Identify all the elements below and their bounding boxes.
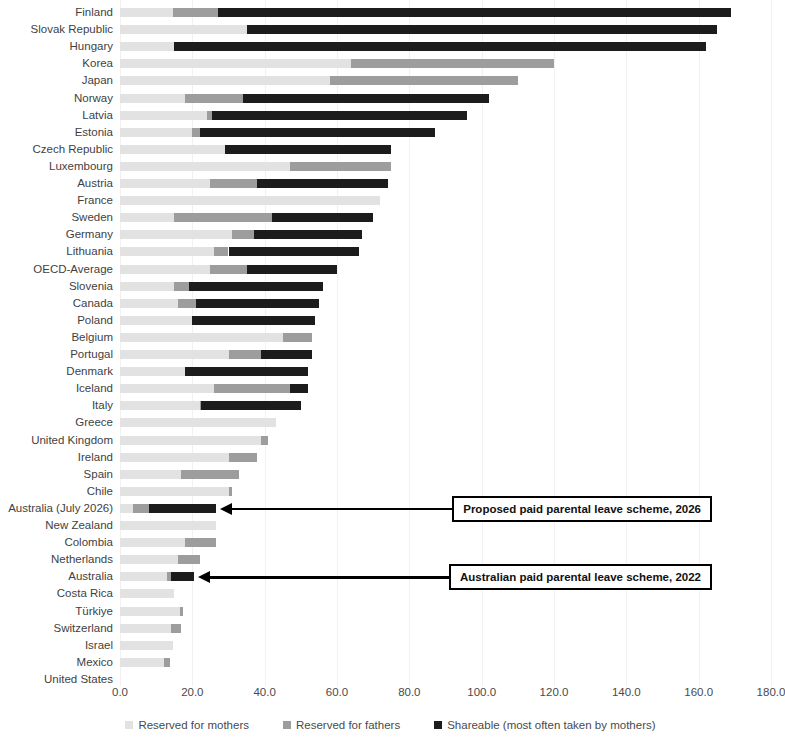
- bar-segment-fathers: [214, 384, 290, 393]
- table-row: Lithuania: [0, 245, 781, 262]
- stacked-bar: [120, 384, 308, 393]
- table-row: Spain: [0, 468, 781, 485]
- bar-segment-fathers: [181, 470, 239, 479]
- legend-label: Reserved for mothers: [138, 719, 249, 731]
- stacked-bar: [120, 487, 232, 496]
- bar-segment-shareable: [196, 299, 319, 308]
- bar-segment-fathers: [192, 128, 199, 137]
- bar-segment-fathers: [229, 487, 233, 496]
- category-label: Slovak Republic: [0, 23, 113, 36]
- bar-segment-shareable: [254, 230, 363, 239]
- table-row: Slovak Republic: [0, 23, 781, 40]
- table-row: Japan: [0, 74, 781, 91]
- legend-item-shareable[interactable]: Shareable (most often taken by mothers): [434, 719, 655, 731]
- legend-item-mothers[interactable]: Reserved for mothers: [125, 719, 249, 731]
- bar-segment-shareable: [290, 384, 308, 393]
- annotation-label: Proposed paid parental leave scheme, 202…: [452, 496, 712, 522]
- bar-segment-mothers: [120, 418, 276, 427]
- table-row: Canada: [0, 297, 781, 314]
- category-label: Spain: [0, 468, 113, 481]
- bar-segment-mothers: [120, 555, 178, 564]
- stacked-bar: [120, 538, 216, 547]
- table-row: Türkiye: [0, 605, 781, 622]
- plot-area: FinlandSlovak RepublicHungaryKoreaJapanN…: [0, 0, 781, 686]
- stacked-bar: [120, 316, 315, 325]
- category-label: Italy: [0, 399, 113, 412]
- bar-segment-mothers: [120, 59, 351, 68]
- category-label: Slovenia: [0, 280, 113, 293]
- x-tick-label: 20.0: [181, 686, 203, 698]
- stacked-bar: [120, 521, 216, 530]
- bar-segment-mothers: [120, 8, 173, 17]
- category-label: Ireland: [0, 451, 113, 464]
- category-label: Hungary: [0, 40, 113, 53]
- bar-segment-mothers: [120, 145, 225, 154]
- annotation-label: Australian paid parental leave scheme, 2…: [449, 564, 712, 590]
- category-label: Latvia: [0, 109, 113, 122]
- bar-segment-shareable: [200, 128, 435, 137]
- bar-segment-shareable: [192, 316, 315, 325]
- category-label: Lithuania: [0, 245, 113, 258]
- bar-segment-shareable: [201, 401, 300, 410]
- bar-segment-mothers: [120, 230, 232, 239]
- bar-segment-shareable: [225, 145, 391, 154]
- stacked-bar: [120, 607, 183, 616]
- table-row: Belgium: [0, 331, 781, 348]
- x-tick-label: 40.0: [253, 686, 275, 698]
- bar-segment-mothers: [120, 350, 229, 359]
- category-label: Korea: [0, 57, 113, 70]
- table-row: Switzerland: [0, 622, 781, 639]
- stacked-bar: [120, 453, 257, 462]
- category-label: Switzerland: [0, 622, 113, 635]
- table-row: Iceland: [0, 382, 781, 399]
- category-label: Colombia: [0, 536, 113, 549]
- table-row: Estonia: [0, 126, 781, 143]
- annotation-callout: Proposed paid parental leave scheme, 202…: [0, 496, 781, 522]
- bar-segment-mothers: [120, 384, 214, 393]
- stacked-bar: [120, 470, 239, 479]
- arrow-head: [198, 571, 210, 583]
- table-row: Colombia: [0, 536, 781, 553]
- stacked-bar: [120, 25, 717, 34]
- bar-segment-fathers: [174, 213, 272, 222]
- bar-segment-mothers: [120, 282, 174, 291]
- table-row: Latvia: [0, 109, 781, 126]
- x-tick-label: 140.0: [612, 686, 641, 698]
- bar-segment-shareable: [243, 94, 489, 103]
- stacked-bar: [120, 589, 174, 598]
- x-tick-label: 100.0: [467, 686, 496, 698]
- stacked-bar: [120, 59, 554, 68]
- table-row: Slovenia: [0, 280, 781, 297]
- bar-segment-mothers: [120, 316, 192, 325]
- category-label: United States: [0, 673, 113, 686]
- category-label: Finland: [0, 6, 113, 19]
- stacked-bar: [120, 94, 489, 103]
- bar-segment-mothers: [120, 333, 283, 342]
- bar-segment-fathers: [351, 59, 554, 68]
- table-row: OECD-Average: [0, 263, 781, 280]
- bar-segment-shareable: [212, 111, 467, 120]
- category-label: France: [0, 194, 113, 207]
- bar-segment-mothers: [120, 607, 180, 616]
- legend-swatch-mothers-icon: [125, 721, 133, 729]
- table-row: Luxembourg: [0, 160, 781, 177]
- stacked-bar: [120, 350, 312, 359]
- arrow-head: [220, 503, 232, 515]
- stacked-bar: [120, 111, 467, 120]
- bar-segment-mothers: [120, 436, 261, 445]
- bar-segment-mothers: [120, 589, 174, 598]
- x-tick-label: 60.0: [326, 686, 348, 698]
- category-label: Sweden: [0, 211, 113, 224]
- bar-segment-fathers: [173, 8, 218, 17]
- bar-segment-mothers: [120, 641, 173, 650]
- stacked-bar: [120, 230, 362, 239]
- table-row: Italy: [0, 399, 781, 416]
- bar-segment-mothers: [120, 94, 185, 103]
- category-label: Portugal: [0, 348, 113, 361]
- bar-segment-mothers: [120, 162, 290, 171]
- table-row: Israel: [0, 639, 781, 656]
- legend-item-fathers[interactable]: Reserved for fathers: [283, 719, 400, 731]
- stacked-bar: [120, 401, 301, 410]
- bar-segment-fathers: [261, 436, 268, 445]
